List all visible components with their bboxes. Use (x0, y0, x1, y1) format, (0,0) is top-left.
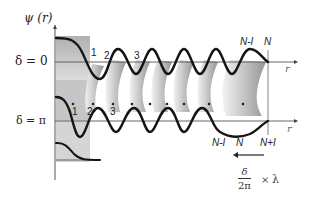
site-label-bottom-n: N (236, 138, 243, 148)
site-label-bottom-2: 2 (87, 107, 93, 117)
site-label-bottom-3: 3 (110, 107, 116, 117)
site-label-top-1: 1 (91, 48, 97, 58)
x-axis-label-top: r (285, 64, 290, 74)
site-label-top-2: 2 (104, 51, 110, 61)
shift-times: × (261, 175, 269, 185)
row-label-delta-0: δ = 0 (15, 55, 48, 67)
site-label-bottom-n-plus-1: N+I (260, 138, 276, 148)
y-axis-arrow (53, 25, 57, 29)
shift-factor: λ (272, 174, 279, 185)
site-label-top-3: 3 (134, 51, 140, 61)
site-label-top-n-1: N-I (240, 37, 253, 47)
site-label-bottom-1: 1 (72, 107, 78, 117)
site-label-bottom-n-1: N-I (212, 138, 225, 148)
shift-numerator: δ (238, 166, 251, 179)
row-label-delta-pi: δ = π (16, 115, 46, 126)
shift-fraction: δ 2π (238, 166, 251, 191)
y-axis-label: ψ (r) (24, 12, 52, 24)
wavefunction-diagram (0, 0, 315, 197)
site-label-top-n: N (264, 37, 271, 47)
x-axis-label-bottom: r (287, 124, 292, 134)
shift-denominator: 2π (238, 179, 251, 191)
